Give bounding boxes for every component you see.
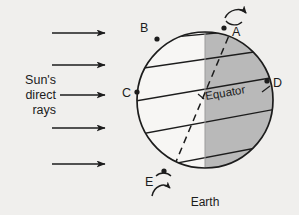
rotation-arc-north-lower (226, 21, 242, 25)
sun-rays-label: Sun's direct rays (25, 73, 56, 117)
earth-sun-rays-diagram: Equator A B C D E (0, 0, 299, 215)
point-dot-c (134, 89, 139, 94)
sun-rays-label-line-1: Sun's (25, 73, 56, 87)
rotation-arc-south-upper (156, 173, 171, 176)
rotation-arrow-north (225, 10, 246, 25)
point-label-c: C (122, 86, 131, 100)
point-dot-a (221, 25, 226, 30)
point-dot-b (154, 36, 159, 41)
point-label-d: D (273, 76, 282, 90)
sun-rays-label-line-3: rays (32, 103, 56, 117)
earth-caption: Earth (191, 195, 220, 209)
point-label-e: E (145, 175, 153, 189)
point-label-b: B (140, 21, 148, 35)
sun-rays-label-line-2: direct (25, 88, 56, 102)
rotation-arc-north (225, 10, 246, 18)
rotation-arrow-south (152, 173, 171, 196)
point-dot-d (264, 78, 269, 83)
rotation-arc-south (152, 185, 170, 196)
point-label-a: A (232, 25, 241, 39)
diagram-canvas: Equator A B C D E (0, 0, 299, 215)
sun-ray-arrows (52, 33, 105, 164)
